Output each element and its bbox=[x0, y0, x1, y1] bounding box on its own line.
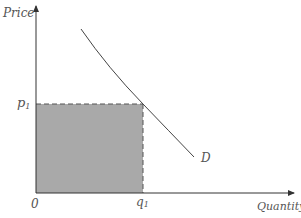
y-axis-label: Price bbox=[2, 6, 34, 20]
p1-sub: 1 bbox=[25, 102, 30, 111]
demand-chart: Price Quantity 0 D p1 q1 bbox=[0, 0, 301, 218]
q1-label: q1 bbox=[136, 195, 149, 209]
x-axis-label: Quantity bbox=[257, 200, 301, 213]
q1-sub: 1 bbox=[144, 200, 149, 209]
shaded-revenue-area bbox=[36, 104, 143, 193]
p1-label: p1 bbox=[17, 95, 30, 111]
origin-label: 0 bbox=[31, 197, 39, 211]
curve-label-d: D bbox=[200, 151, 211, 165]
